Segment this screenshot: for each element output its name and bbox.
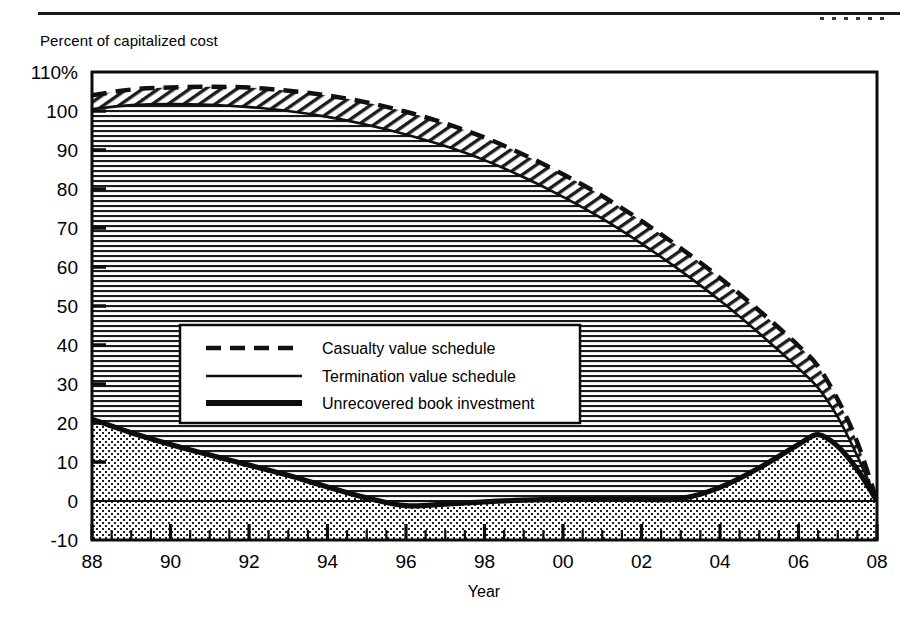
- x-tick-label: 06: [788, 551, 809, 572]
- legend-label-casualty: Casualty value schedule: [322, 340, 496, 357]
- legend-label-termination: Termination value schedule: [322, 368, 516, 385]
- x-tick-label: 92: [238, 551, 259, 572]
- y-tick-label: 60: [57, 257, 78, 278]
- x-tick-label: 08: [866, 551, 887, 572]
- y-tick-label: 50: [57, 296, 78, 317]
- x-axis-title: Year: [468, 583, 501, 600]
- x-tick-label: 00: [552, 551, 573, 572]
- y-tick-label: 30: [57, 374, 78, 395]
- page-root: Percent of capitalized cost: [0, 0, 916, 632]
- y-tick-label: 90: [57, 140, 78, 161]
- y-tick-label: 110%: [31, 62, 78, 83]
- plot-area: 110%1009080706050403020100-10 8890929496…: [31, 62, 888, 572]
- y-tick-label: 10: [57, 452, 78, 473]
- y-tick-label: 40: [57, 335, 78, 356]
- chart-figure: 110%1009080706050403020100-10 8890929496…: [0, 0, 916, 632]
- y-tick-label: -10: [51, 530, 78, 551]
- x-tick-label: 96: [395, 551, 416, 572]
- x-tick-label: 04: [709, 551, 731, 572]
- legend-label-unrecovered: Unrecovered book investment: [322, 395, 535, 412]
- x-tick-label: 94: [317, 551, 339, 572]
- y-tick-label: 20: [57, 413, 78, 434]
- y-tick-label: 80: [57, 179, 78, 200]
- legend: Casualty value schedule Termination valu…: [180, 325, 580, 423]
- x-tick-label: 02: [631, 551, 652, 572]
- x-tick-label: 88: [81, 551, 102, 572]
- y-tick-label: 0: [67, 491, 78, 512]
- x-tick-label: 98: [474, 551, 495, 572]
- y-tick-label: 100: [46, 101, 78, 122]
- x-tick-label: 90: [160, 551, 181, 572]
- y-axis-tick-labels: 110%1009080706050403020100-10: [31, 62, 78, 551]
- x-axis-tick-labels: 8890929496980002040608: [81, 551, 887, 572]
- y-tick-label: 70: [57, 218, 78, 239]
